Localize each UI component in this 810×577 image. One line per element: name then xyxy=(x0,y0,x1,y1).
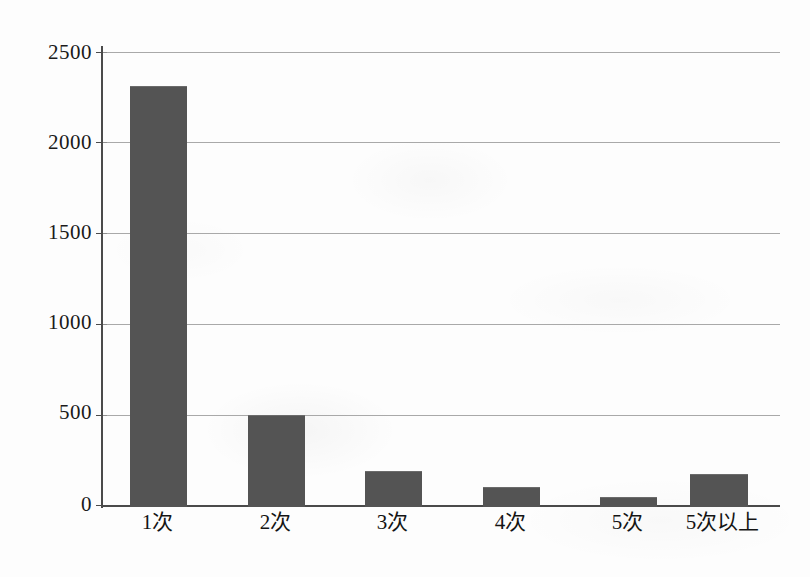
gridline-2500 xyxy=(103,52,780,53)
bar-5 xyxy=(600,497,657,507)
gridline-2000 xyxy=(103,142,780,143)
gridline-1000 xyxy=(103,324,780,325)
y-tick-label-500: 500 xyxy=(6,402,92,423)
x-tick-label-2: 2次 xyxy=(218,512,333,533)
x-tick-label-3: 3次 xyxy=(335,512,450,533)
y-axis-tick-labels: 2500 2000 1500 1000 500 0 xyxy=(0,0,92,577)
y-tick-label-2500: 2500 xyxy=(6,42,92,63)
y-tick-label-0: 0 xyxy=(6,494,92,515)
y-tick-label-2000: 2000 xyxy=(6,132,92,153)
gridline-1500 xyxy=(103,233,780,234)
y-tick-label-1000: 1000 xyxy=(6,312,92,333)
bar-2 xyxy=(248,415,305,507)
y-tick-label-1500: 1500 xyxy=(6,222,92,243)
bar-6 xyxy=(690,474,748,507)
plot-area xyxy=(103,52,780,506)
bar-4 xyxy=(483,487,540,507)
bar-3 xyxy=(365,471,422,507)
x-tick-label-1: 1次 xyxy=(100,512,215,533)
bar-1 xyxy=(130,86,187,507)
gridline-500 xyxy=(103,415,780,416)
x-tick-label-4: 4次 xyxy=(453,512,568,533)
bar-chart-figure: 2500 2000 1500 1000 500 0 1次 2次 3次 4次 5次… xyxy=(0,0,810,577)
x-tick-label-6: 5次以上 xyxy=(660,512,785,533)
